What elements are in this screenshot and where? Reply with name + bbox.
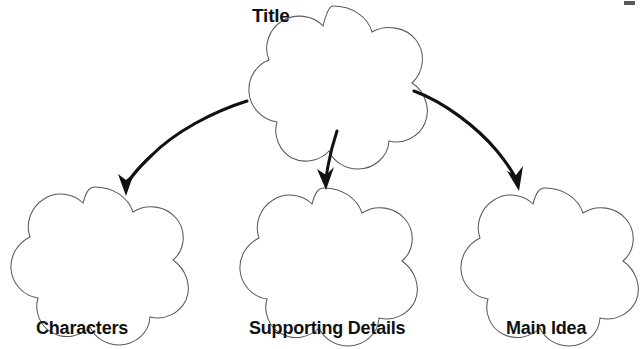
node-label-main-idea[interactable]: Main Idea (506, 318, 586, 339)
node-label-characters[interactable]: Characters (36, 318, 128, 339)
arrow-to-characters (118, 101, 247, 196)
flower-outline-title (249, 6, 427, 169)
arrow-to-main-idea (414, 91, 523, 191)
arrow-to-main-idea-line (414, 91, 517, 182)
arrow-to-supporting-details-head (317, 167, 334, 190)
diagram-graphic (0, 0, 641, 349)
scan-artifact (624, 1, 635, 5)
node-shape-title[interactable] (249, 6, 427, 169)
worksheet-canvas: Title Characters Supporting Details Main… (0, 0, 641, 349)
node-label-title[interactable]: Title (252, 5, 290, 27)
arrow-to-characters-head (118, 173, 134, 196)
arrow-to-characters-line (126, 101, 247, 187)
node-label-supporting-details[interactable]: Supporting Details (249, 318, 405, 339)
